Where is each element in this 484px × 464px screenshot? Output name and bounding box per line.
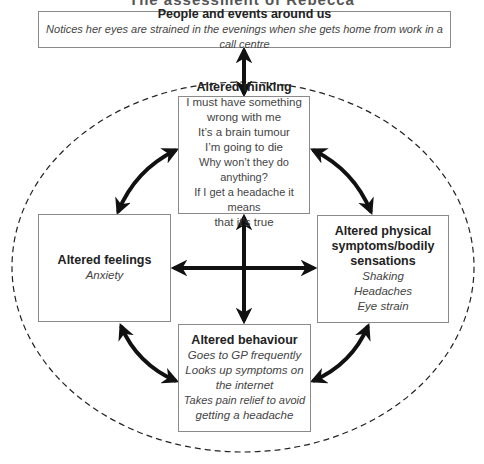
behaviour-line: Takes pain relief to avoid <box>184 393 305 408</box>
altered-behaviour-box: Altered behaviour Goes to GP frequently … <box>178 324 311 432</box>
thinking-line: Why won’t they do anything? <box>179 155 309 185</box>
people-events-box: People and events around us Notices her … <box>38 11 451 48</box>
behaviour-line: getting a headache <box>196 408 294 423</box>
altered-thinking-box: Altered thinking I must have something w… <box>178 96 310 214</box>
altered-feelings-heading: Altered feelings <box>58 253 152 268</box>
behaviour-line: Goes to GP frequently <box>188 348 301 363</box>
thinking-line: that it’s true <box>214 215 273 230</box>
physical-behaviour-arrow <box>313 326 368 381</box>
thinking-line: If I get a headache it means <box>179 185 309 215</box>
people-events-heading: People and events around us <box>158 7 332 22</box>
altered-thinking-heading: Altered thinking <box>196 80 291 95</box>
thinking-line: It’s a brain tumour <box>198 125 290 140</box>
people-events-text: Notices her eyes are strained in the eve… <box>39 22 450 52</box>
physical-line: Headaches <box>354 284 412 299</box>
thinking-feelings-arrow <box>118 150 176 212</box>
altered-feelings-box: Altered feelings Anxiety <box>38 214 171 322</box>
altered-behaviour-heading: Altered behaviour <box>191 333 297 348</box>
thinking-line: I’m going to die <box>205 140 283 155</box>
thinking-physical-arrow <box>313 150 371 212</box>
physical-line: Eye strain <box>357 299 408 314</box>
thinking-line: wrong with me <box>207 110 281 125</box>
behaviour-line: Looks up symptoms on <box>185 363 303 378</box>
feelings-behaviour-arrow <box>121 326 176 381</box>
behaviour-line: the internet <box>216 378 274 393</box>
altered-physical-heading: sensations <box>350 254 415 269</box>
altered-physical-heading: symptoms/bodily <box>332 239 435 254</box>
thinking-line: I must have something <box>186 95 302 110</box>
altered-physical-heading: Altered physical <box>335 224 432 239</box>
physical-line: Shaking <box>362 269 404 284</box>
altered-physical-box: Altered physical symptoms/bodily sensati… <box>317 215 449 323</box>
feelings-line: Anxiety <box>86 268 124 283</box>
